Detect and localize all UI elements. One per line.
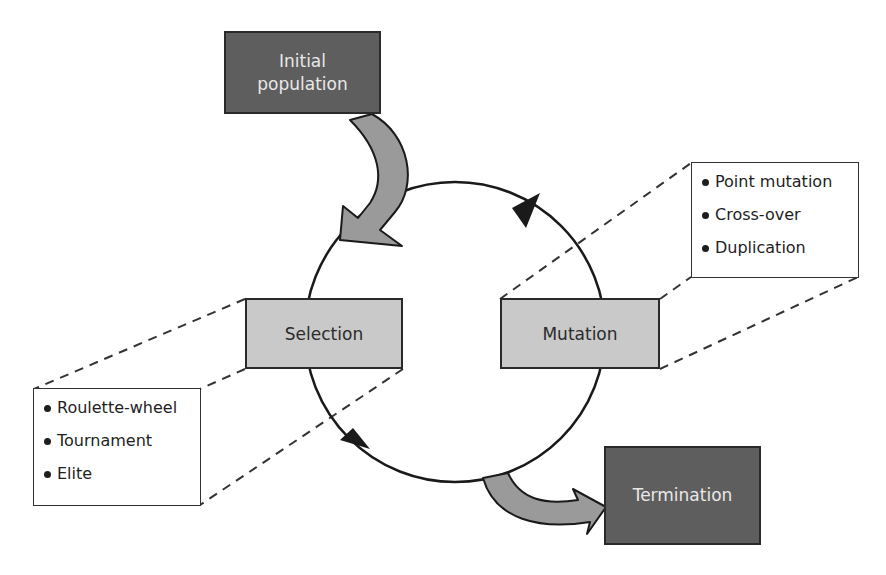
bullet-icon [44,438,51,445]
bullet-icon [44,471,51,478]
termination-node: Termination [604,446,761,545]
list-item-label: Duplication [715,237,806,259]
cycle-arrowhead-bottom-icon [340,428,370,449]
initial-population-node: Initial population [224,31,381,114]
mutation-methods-list: Point mutation Cross-over Duplication [691,162,859,278]
cycle-to-termination-arrow-icon [483,473,606,534]
list-item-label: Elite [57,463,92,485]
list-item: Roulette-wheel [44,397,200,430]
termination-label: Termination [633,484,733,507]
mutation-label: Mutation [542,324,617,344]
initial-population-label-line1: Initial [257,50,347,73]
list-item: Duplication [702,237,858,270]
list-item: Cross-over [702,204,858,237]
list-item: Tournament [44,430,200,463]
selection-node: Selection [245,298,403,369]
list-item-label: Roulette-wheel [57,397,177,419]
initial-population-label-line2: population [257,73,347,96]
bullet-icon [702,245,709,252]
selection-methods-list: Roulette-wheel Tournament Elite [33,388,201,506]
bullet-icon [44,405,51,412]
list-item-label: Tournament [57,430,152,452]
cycle-arrowhead-top-icon [512,193,540,228]
bullet-icon [702,179,709,186]
list-item: Elite [44,463,200,496]
list-item: Point mutation [702,171,858,204]
initial-to-cycle-arrow-icon [340,114,408,246]
bullet-icon [702,212,709,219]
selection-label: Selection [285,324,363,344]
mutation-node: Mutation [500,298,660,369]
list-item-label: Point mutation [715,171,832,193]
list-item-label: Cross-over [715,204,801,226]
